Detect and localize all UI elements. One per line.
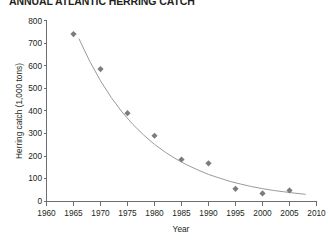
- x-tick-label-2005: 2005: [280, 208, 299, 218]
- data-point-1965: [70, 31, 76, 37]
- x-tick-label-1965: 1965: [64, 208, 83, 218]
- y-tick-label-500: 500: [28, 83, 42, 93]
- x-tick-label-1980: 1980: [145, 208, 164, 218]
- y-tick-label-800: 800: [28, 16, 42, 26]
- x-tick-label-2000: 2000: [253, 208, 272, 218]
- data-point-2000: [259, 190, 265, 196]
- y-tick-label-600: 600: [28, 61, 42, 71]
- y-tick-label-100: 100: [28, 173, 42, 183]
- x-axis-title: Year: [173, 224, 190, 234]
- x-tick-label-1995: 1995: [226, 208, 245, 218]
- x-tick-label-1990: 1990: [199, 208, 218, 218]
- data-point-1985: [178, 156, 184, 162]
- x-tick-label-1975: 1975: [118, 208, 137, 218]
- x-tick-label-1985: 1985: [172, 208, 191, 218]
- x-tick-label-1970: 1970: [91, 208, 110, 218]
- data-point-1970: [97, 66, 103, 72]
- x-tick-label-1960: 1960: [37, 208, 56, 218]
- data-point-markers: [70, 31, 292, 197]
- fit-curve: [79, 39, 306, 195]
- data-point-1980: [151, 133, 157, 139]
- x-tick-label-2010: 2010: [307, 208, 326, 218]
- chart-container: ANNUAL ATLANTIC HERRING CATCH Herring ca…: [0, 0, 328, 240]
- y-tick-label-0: 0: [37, 196, 42, 206]
- y-tick-label-400: 400: [28, 106, 42, 116]
- y-tick-label-300: 300: [28, 128, 42, 138]
- chart-plot: Herring catch (1,000 tons) 800 700 600 5…: [0, 0, 328, 240]
- y-tick-label-200: 200: [28, 151, 42, 161]
- y-axis-title: Herring catch (1,000 tons): [14, 63, 24, 159]
- y-tick-label-700: 700: [28, 38, 42, 48]
- data-point-1995: [232, 186, 238, 192]
- data-point-1990: [205, 160, 211, 166]
